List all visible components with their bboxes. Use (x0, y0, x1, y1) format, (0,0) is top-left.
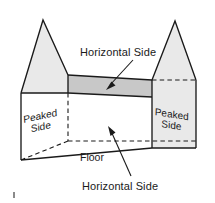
figure-peaked-prism: Horizontal Side Horizontal Side Floor Pe… (0, 0, 215, 203)
label-horizontal-side-top: Horizontal Side (80, 46, 156, 58)
left-gable-face (21, 20, 68, 93)
corner-tick-mark (13, 192, 15, 198)
label-horizontal-side-bottom: Horizontal Side (82, 180, 158, 192)
figure-svg (0, 0, 215, 203)
label-floor: Floor (80, 152, 104, 164)
